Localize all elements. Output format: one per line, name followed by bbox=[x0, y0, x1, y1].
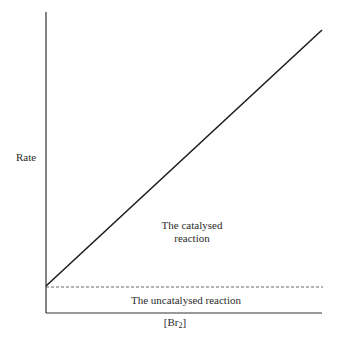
x-axis-label-main: [Br bbox=[164, 316, 179, 328]
catalysed-label-line2: reaction bbox=[152, 232, 232, 245]
y-axis-label: Rate bbox=[16, 151, 36, 164]
x-axis-label: [Br2] bbox=[150, 316, 200, 329]
x-axis-label-close: ] bbox=[183, 316, 187, 328]
catalysed-reaction-line bbox=[46, 30, 322, 286]
uncatalysed-reaction-label: The uncatalysed reaction bbox=[120, 294, 252, 307]
catalysed-reaction-label: The catalysed reaction bbox=[152, 219, 232, 245]
catalysed-label-line1: The catalysed bbox=[152, 219, 232, 232]
